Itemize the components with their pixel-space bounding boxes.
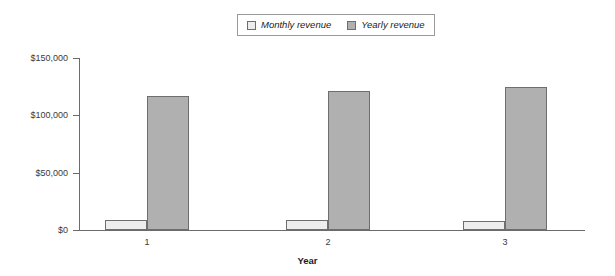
y-axis-tick-label: $100,000: [0, 111, 68, 120]
bar-monthly-revenue-year-1[interactable]: [105, 220, 147, 230]
bar-monthly-revenue-year-2[interactable]: [286, 220, 328, 230]
legend-entry-monthly-revenue[interactable]: Monthly revenue: [247, 20, 331, 30]
y-axis-tick-label: $50,000: [0, 168, 68, 177]
x-axis-tick-label: 2: [325, 238, 330, 247]
legend-label-yearly-revenue: Yearly revenue: [361, 20, 424, 30]
y-axis-tick-label: $0: [0, 226, 68, 235]
y-axis-tick-label: $150,000: [0, 54, 68, 63]
plot-area: [79, 58, 585, 230]
x-axis-tick-label: 3: [502, 238, 507, 247]
bar-yearly-revenue-year-1[interactable]: [147, 96, 189, 230]
legend-label-monthly-revenue: Monthly revenue: [261, 20, 331, 30]
legend-swatch-yearly-revenue: [347, 21, 356, 30]
x-axis-tick-label: 1: [144, 238, 149, 247]
bar-yearly-revenue-year-3[interactable]: [505, 87, 547, 230]
x-axis-line: [79, 230, 585, 231]
bar-monthly-revenue-year-3[interactable]: [463, 221, 505, 230]
y-axis-tick: [73, 230, 79, 231]
bar-chart: Monthly revenue Yearly revenue $0$50,000…: [0, 0, 615, 276]
legend-entry-yearly-revenue[interactable]: Yearly revenue: [347, 20, 424, 30]
bar-yearly-revenue-year-2[interactable]: [328, 91, 370, 230]
chart-legend: Monthly revenue Yearly revenue: [237, 14, 435, 36]
legend-swatch-monthly-revenue: [247, 21, 256, 30]
x-axis-title: Year: [0, 256, 615, 266]
